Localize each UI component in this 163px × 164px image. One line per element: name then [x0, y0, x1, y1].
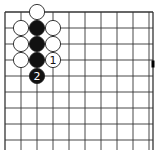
- white-stone: 1: [45, 52, 60, 67]
- move-number-label: 2: [34, 70, 41, 83]
- go-board: 12: [0, 0, 163, 164]
- black-stone: [29, 52, 44, 67]
- white-stone: [45, 36, 60, 51]
- white-stone: [13, 36, 28, 51]
- white-stone: [45, 20, 60, 35]
- white-stone: [29, 4, 44, 19]
- black-stone: [29, 36, 44, 51]
- edge-marker: [152, 61, 155, 68]
- white-stone: [13, 20, 28, 35]
- edge-stone-fragment: [152, 61, 155, 68]
- white-stone: [13, 52, 28, 67]
- black-stone: [29, 20, 44, 35]
- move-number-label: 1: [50, 54, 57, 67]
- black-stone: 2: [29, 68, 44, 83]
- stones-layer: 12: [13, 4, 60, 83]
